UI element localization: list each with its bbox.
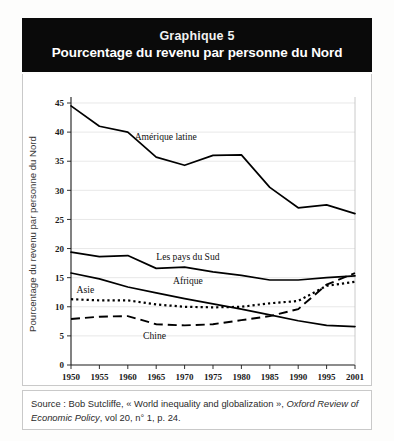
- x-tick-label: 1965: [147, 372, 166, 382]
- y-tick-label: 40: [55, 127, 65, 137]
- x-tick-label: 1995: [318, 372, 337, 382]
- x-tick-label: 1950: [62, 372, 81, 382]
- figure-container: Graphique 5 Pourcentage du revenu par pe…: [0, 0, 394, 441]
- source-suffix: , vol 20, n° 1, p. 24.: [100, 412, 181, 423]
- series-label-les-pays-du-sud: Les pays du Sud: [156, 251, 219, 262]
- y-tick-label: 45: [55, 98, 65, 108]
- x-tick-label: 1985: [261, 372, 280, 382]
- y-tick-label: 35: [55, 156, 65, 166]
- line-chart: 0510152025303540451950195519601965197019…: [23, 74, 371, 384]
- x-tick-label: 2001: [346, 372, 365, 382]
- x-tick-label: 1960: [119, 372, 138, 382]
- source-caption-box: Source : Bob Sutcliffe, « World inequali…: [22, 390, 372, 430]
- source-prefix: Source : Bob Sutcliffe, « World inequali…: [31, 398, 287, 409]
- y-tick-label: 5: [60, 331, 65, 341]
- chart-panel: 0510152025303540451950195519601965197019…: [22, 74, 372, 386]
- figure-title-bar: Graphique 5 Pourcentage du revenu par pe…: [22, 18, 372, 72]
- series-label-asie: Asie: [77, 284, 95, 295]
- y-tick-label: 30: [55, 186, 65, 196]
- y-tick-label: 20: [55, 244, 65, 254]
- y-tick-label: 0: [60, 360, 65, 370]
- source-caption: Source : Bob Sutcliffe, « World inequali…: [31, 397, 363, 424]
- series-label-chine: Chine: [143, 330, 166, 341]
- x-tick-label: 1980: [232, 372, 251, 382]
- series-label-am-rique-latine: Amérique latine: [135, 131, 197, 142]
- y-tick-label: 10: [55, 302, 65, 312]
- series-line-chine: [71, 273, 355, 325]
- x-tick-label: 1970: [176, 372, 195, 382]
- figure-number: Graphique 5: [159, 30, 234, 43]
- series-label-afrique: Afrique: [173, 275, 203, 286]
- y-tick-label: 25: [55, 215, 65, 225]
- series-line-am-rique-latine: [71, 106, 355, 214]
- x-tick-label: 1975: [204, 372, 223, 382]
- x-tick-label: 1955: [90, 372, 109, 382]
- y-axis-title: Pourcentage du revenu par personne du No…: [27, 136, 38, 332]
- y-tick-label: 15: [55, 273, 65, 283]
- figure-title: Pourcentage du revenu par personne du No…: [52, 46, 343, 60]
- x-tick-label: 1990: [289, 372, 308, 382]
